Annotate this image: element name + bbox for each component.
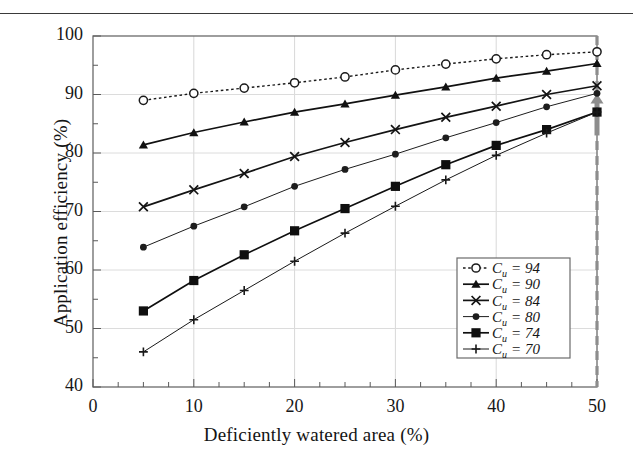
series-3-point-9 — [594, 90, 601, 97]
y-tick-label-60: 60 — [37, 258, 83, 279]
series-0-point-8 — [543, 51, 551, 59]
series-line-1 — [143, 64, 597, 145]
series-4-point-2 — [240, 250, 249, 259]
series-0-point-1 — [190, 89, 198, 97]
series-2-point-0 — [139, 202, 148, 211]
y-tick-label-90: 90 — [37, 83, 83, 104]
x-axis-title: Deficiently watered area (%) — [0, 424, 633, 446]
x-tick-label-50: 50 — [577, 396, 617, 417]
series-3-point-6 — [442, 134, 449, 141]
series-5-point-3 — [290, 257, 299, 266]
series-3-point-1 — [190, 223, 197, 230]
y-tick-label-70: 70 — [37, 200, 83, 221]
y-tick-label-80: 80 — [37, 141, 83, 162]
series-1-point-9 — [592, 59, 601, 67]
y-tick-label-50: 50 — [37, 317, 83, 338]
series-0-point-3 — [291, 79, 299, 87]
series-4-point-0 — [139, 306, 148, 315]
series-0-point-7 — [492, 55, 500, 63]
series-line-3 — [143, 93, 597, 247]
series-line-2 — [143, 86, 597, 207]
series-4-point-4 — [340, 204, 349, 213]
legend-marker-open-circle — [472, 264, 480, 272]
series-3-point-8 — [543, 103, 550, 110]
series-5-point-1 — [189, 315, 198, 324]
series-3-point-3 — [291, 183, 298, 190]
y-tick-label-100: 100 — [37, 24, 83, 45]
legend-marker-filled-square — [471, 328, 480, 337]
series-3-point-4 — [342, 166, 349, 173]
series-3-point-2 — [241, 203, 248, 210]
chart-canvas: Cu= 94Cu= 90Cu= 84Cu= 80Cu= 74Cu= 70 — [0, 0, 633, 462]
series-4-point-5 — [391, 182, 400, 191]
series-5-point-6 — [441, 176, 450, 185]
series-5-point-5 — [391, 202, 400, 211]
series-0-point-5 — [391, 66, 399, 74]
y-tick-label-40: 40 — [37, 375, 83, 396]
series-0-point-6 — [442, 60, 450, 68]
figure-container: Cu= 94Cu= 90Cu= 84Cu= 80Cu= 74Cu= 70 Def… — [0, 0, 633, 462]
series-4-point-1 — [189, 276, 198, 285]
x-tick-label-30: 30 — [375, 396, 415, 417]
series-4-point-6 — [441, 160, 450, 169]
series-line-0 — [143, 52, 597, 101]
x-tick-label-10: 10 — [174, 396, 214, 417]
y-axis-title: Application efficiency (%) — [50, 58, 72, 388]
x-tick-label-40: 40 — [476, 396, 516, 417]
series-3-point-7 — [493, 119, 500, 126]
series-0-point-0 — [139, 96, 147, 104]
series-5-point-2 — [240, 286, 249, 295]
series-5-point-7 — [492, 151, 501, 160]
series-4-point-7 — [492, 141, 501, 150]
series-3-point-0 — [140, 244, 147, 251]
series-5-point-0 — [139, 348, 148, 357]
x-tick-label-20: 20 — [275, 396, 315, 417]
legend-marker-small-filled-circle — [473, 313, 480, 320]
series-3-point-5 — [392, 151, 399, 158]
x-tick-label-0: 0 — [73, 396, 113, 417]
series-0-point-9 — [593, 48, 601, 56]
series-0-point-4 — [341, 73, 349, 81]
series-0-point-2 — [240, 84, 248, 92]
series-5-point-4 — [341, 229, 350, 238]
series-4-point-3 — [290, 226, 299, 235]
series-2-point-2 — [240, 169, 249, 178]
